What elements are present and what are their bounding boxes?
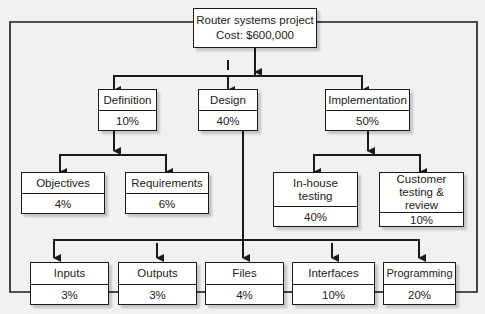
root-node: Router systems project Cost: $600,000: [193, 8, 317, 48]
node-in-house-testing: In-house testing 40%: [273, 172, 358, 227]
node-percent: 40%: [199, 111, 257, 130]
node-percent: 3%: [31, 285, 108, 304]
node-label: In-house testing: [274, 173, 357, 207]
node-inputs: Inputs 3%: [30, 262, 109, 305]
node-label: Design: [199, 90, 257, 111]
node-objectives: Objectives 4%: [21, 172, 105, 214]
node-label: Outputs: [119, 263, 196, 285]
node-percent: 20%: [384, 285, 455, 304]
node-label: Implementation: [326, 90, 409, 111]
node-definition: Definition 10%: [98, 89, 157, 131]
node-percent: 50%: [326, 111, 409, 130]
node-percent: 10%: [380, 213, 463, 226]
node-label: Objectives: [22, 173, 104, 194]
node-files: Files 4%: [205, 262, 284, 305]
node-percent: 40%: [274, 207, 357, 226]
node-percent: 6%: [126, 194, 208, 213]
node-customer-testing: Customer testing & review 10%: [379, 172, 464, 227]
node-label: Programming: [384, 263, 455, 285]
node-label: Inputs: [31, 263, 108, 285]
node-percent: 10%: [99, 111, 156, 130]
node-percent: 3%: [119, 285, 196, 304]
root-title: Router systems project: [194, 13, 316, 28]
node-label: Interfaces: [293, 263, 374, 285]
node-requirements: Requirements 6%: [125, 172, 209, 214]
node-label: Customer testing & review: [380, 173, 463, 213]
node-design: Design 40%: [198, 89, 258, 131]
node-label: Files: [206, 263, 283, 285]
node-percent: 10%: [293, 285, 374, 304]
node-implementation: Implementation 50%: [325, 89, 410, 131]
node-percent: 4%: [22, 194, 104, 213]
root-cost: Cost: $600,000: [194, 28, 316, 43]
node-outputs: Outputs 3%: [118, 262, 197, 305]
node-programming: Programming 20%: [383, 262, 456, 305]
node-label: Definition: [99, 90, 156, 111]
node-interfaces: Interfaces 10%: [292, 262, 375, 305]
node-percent: 4%: [206, 285, 283, 304]
node-label: Requirements: [126, 173, 208, 194]
